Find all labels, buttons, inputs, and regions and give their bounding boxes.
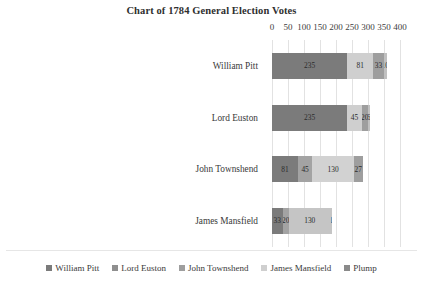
bar-segment-value: 235	[304, 62, 315, 69]
bar-segment: 45	[298, 156, 312, 182]
legend-swatch-icon	[261, 265, 267, 271]
bar-segment: 27	[354, 156, 363, 182]
legend-item[interactable]: Lord Euston	[112, 263, 166, 273]
bar-segment-value: 6	[368, 114, 370, 121]
bar-segment-value: 81	[281, 166, 288, 173]
chart-container: Chart of 1784 General Election Votes 050…	[0, 0, 423, 281]
x-tick-label: 350	[377, 22, 391, 32]
legend-divider	[6, 250, 417, 251]
x-tick-label: 300	[361, 22, 375, 32]
legend-label: Plump	[353, 263, 377, 273]
bar-segment: 33	[373, 53, 384, 79]
legend-label: James Mansfield	[270, 263, 331, 273]
category-label: Lord Euston	[0, 113, 258, 123]
bar: 235813310	[272, 53, 387, 79]
bar-segment-value: 235	[304, 114, 315, 121]
x-tick-label: 200	[329, 22, 343, 32]
bar-segment: 130	[312, 156, 354, 182]
bar-segment: 33	[272, 208, 283, 234]
bar: 23545206	[272, 105, 370, 131]
bar: 814513027	[272, 156, 363, 182]
bar-segment: 235	[272, 105, 347, 131]
legend-swatch-icon	[46, 265, 52, 271]
legend-swatch-icon	[179, 265, 185, 271]
x-tick-label: 150	[313, 22, 327, 32]
bar-segment: 235	[272, 53, 347, 79]
bar-segment-value: 33	[274, 217, 281, 224]
bar-segment-value: 81	[356, 62, 363, 69]
legend-item[interactable]: John Townshend	[179, 263, 248, 273]
legend-swatch-icon	[344, 265, 350, 271]
bar: 33201301	[272, 208, 331, 234]
legend-item[interactable]: William Pitt	[46, 263, 99, 273]
bar-segment-value: 130	[304, 217, 315, 224]
legend-label: Lord Euston	[121, 263, 166, 273]
bar-segment-value: 45	[351, 114, 358, 121]
chart-legend: William PittLord EustonJohn TownshendJam…	[0, 263, 423, 273]
bar-segment-value: 33	[375, 62, 382, 69]
x-tick-label: 50	[284, 22, 293, 32]
legend-item[interactable]: James Mansfield	[261, 263, 331, 273]
bar-segment: 81	[347, 53, 373, 79]
legend-label: John Townshend	[188, 263, 248, 273]
bar-segment: 10	[384, 53, 387, 79]
bar-segment: 81	[272, 156, 298, 182]
category-label: John Townshend	[0, 164, 258, 174]
legend-label: William Pitt	[55, 263, 99, 273]
legend-swatch-icon	[112, 265, 118, 271]
bar-segment-value: 27	[355, 166, 362, 173]
chart-title: Chart of 1784 General Election Votes	[0, 5, 423, 16]
bar-segment: 45	[347, 105, 361, 131]
gridline	[400, 40, 401, 247]
bar-segment-value: 45	[301, 166, 308, 173]
category-label: William Pitt	[0, 61, 258, 71]
category-label: James Mansfield	[0, 216, 258, 226]
x-tick-label: 400	[393, 22, 407, 32]
bar-segment-value: 10	[384, 62, 387, 69]
bar-segment: 6	[368, 105, 370, 131]
x-tick-label: 250	[345, 22, 359, 32]
x-tick-label: 0	[270, 22, 275, 32]
bar-segment-value: 130	[328, 166, 339, 173]
x-tick-label: 100	[297, 22, 311, 32]
legend-item[interactable]: Plump	[344, 263, 377, 273]
bar-segment: 130	[289, 208, 331, 234]
